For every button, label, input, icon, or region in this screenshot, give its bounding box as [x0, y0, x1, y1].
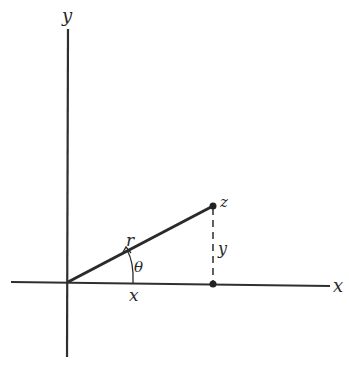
x-axis-label: x: [333, 275, 343, 296]
point-z-label: z: [219, 193, 228, 211]
angle-label: θ: [134, 258, 143, 276]
y-axis-label: y: [61, 5, 73, 26]
point-x-projection: [210, 281, 217, 288]
radius-label: r: [126, 230, 135, 250]
x-component-label: x: [129, 285, 139, 305]
y-component-label: y: [217, 239, 228, 258]
y-axis: [67, 29, 68, 357]
x-axis: [11, 282, 330, 286]
angle-arc: [127, 250, 133, 283]
polar-diagram: y x z r θ x y: [0, 0, 349, 367]
point-z: [210, 203, 217, 210]
